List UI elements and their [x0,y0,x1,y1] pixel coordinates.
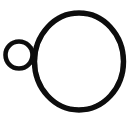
drawing-canvas: Hand-drawn black outline: one large circ… [0,0,128,117]
circle-junction-ink [31,48,33,64]
line-art-figure [0,0,128,117]
